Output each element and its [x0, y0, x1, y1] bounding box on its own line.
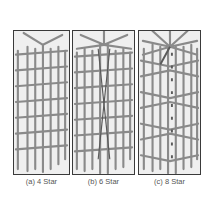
rebar-cage-4-star-illustration [14, 31, 69, 174]
caption-8-star: (c) 8 Star [138, 177, 201, 186]
caption-6-star: (b) 6 Star [72, 177, 135, 186]
panel-8-star [138, 30, 201, 175]
rebar-cage-6-star-illustration [73, 31, 134, 174]
rebar-cage-8-star-illustration [139, 31, 200, 174]
panel-6-star [72, 30, 135, 175]
caption-4-star: (a) 4 Star [13, 177, 70, 186]
panel-4-star [13, 30, 70, 175]
